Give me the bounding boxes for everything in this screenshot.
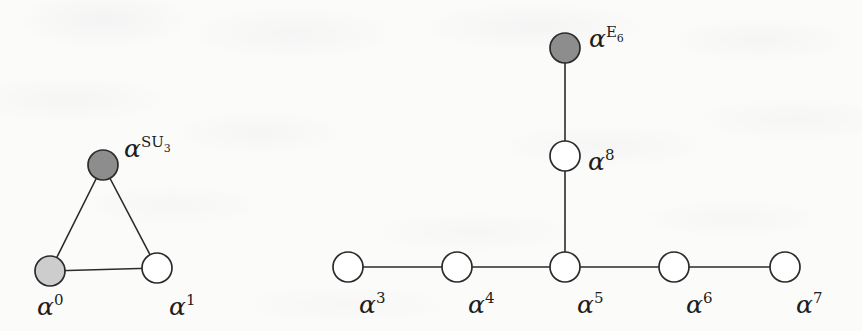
node-label-a6: α6 bbox=[686, 289, 712, 319]
node-a5[interactable] bbox=[550, 252, 580, 282]
node-label-su3: αSU3 bbox=[124, 133, 171, 163]
node-a4[interactable] bbox=[442, 252, 472, 282]
figure-page: αSU3 α0 α1 bbox=[0, 0, 862, 331]
edge-group-left bbox=[50, 165, 157, 271]
node-a3[interactable] bbox=[333, 252, 363, 282]
edge-su3-a0 bbox=[50, 165, 103, 271]
node-a0[interactable] bbox=[35, 256, 65, 286]
node-a7[interactable] bbox=[770, 252, 800, 282]
node-su3[interactable] bbox=[88, 150, 118, 180]
node-label-a3: α3 bbox=[359, 289, 385, 319]
node-label-e6: αE6 bbox=[589, 23, 624, 53]
edge-a0-a1 bbox=[50, 268, 157, 271]
left-triangle-diagram: αSU3 α0 α1 bbox=[35, 133, 195, 321]
dynkin-diagram-figure: αSU3 α0 α1 bbox=[0, 0, 862, 331]
node-label-a4: α4 bbox=[468, 289, 494, 319]
node-label-a1: α1 bbox=[169, 291, 195, 321]
node-label-a0: α0 bbox=[37, 291, 63, 321]
node-label-a7: α7 bbox=[796, 289, 822, 319]
node-e6[interactable] bbox=[550, 33, 580, 63]
edge-su3-a1 bbox=[103, 165, 157, 268]
node-a8[interactable] bbox=[550, 141, 580, 171]
node-label-a8: α8 bbox=[588, 146, 614, 176]
right-tree-diagram: αE6 α8 α3 α4 α5 α6 α7 bbox=[333, 23, 822, 319]
node-a6[interactable] bbox=[659, 252, 689, 282]
node-label-a5: α5 bbox=[577, 289, 603, 319]
node-a1[interactable] bbox=[142, 253, 172, 283]
